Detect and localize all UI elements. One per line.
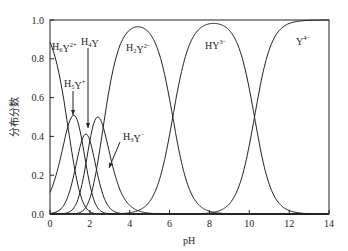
y-tick-label: 0.6: [32, 92, 45, 103]
species-label: H5Y+: [64, 78, 86, 91]
species-label: H6Y2+: [52, 41, 77, 54]
y-tick-label: 0.0: [32, 209, 45, 220]
y-tick-label: 1.0: [32, 15, 45, 26]
species-label: H4Y: [81, 36, 99, 49]
x-tick-label: 14: [324, 218, 334, 229]
y-tick-label: 0.2: [32, 170, 45, 181]
plot-frame: [50, 20, 329, 214]
species-label: H2Y2−: [126, 42, 151, 55]
y-tick-label: 0.4: [32, 131, 45, 142]
x-tick-label: 12: [284, 218, 294, 229]
x-tick-label: 10: [244, 218, 254, 229]
y-axis-ticks: 0.00.20.40.60.81.0: [32, 15, 55, 220]
y-axis-title: 分布分数: [8, 97, 20, 137]
x-tick-label: 0: [48, 218, 53, 229]
x-axis-title: pH: [183, 235, 195, 246]
species-curve-H4Y: [50, 134, 329, 214]
species-curve-Y4-: [50, 20, 329, 214]
species-curve-HY3-: [50, 23, 329, 214]
x-axis-ticks: 02468101214: [48, 210, 335, 229]
species-label: H3Y−: [123, 131, 145, 144]
species-label: Y4−: [296, 34, 310, 47]
species-curves: [50, 20, 329, 214]
distribution-chart: 0.00.20.40.60.81.0 02468101214 H6Y2+H4YH…: [0, 0, 348, 251]
species-curve-H3Y-: [50, 117, 329, 214]
x-tick-label: 2: [87, 218, 92, 229]
annotations: H6Y2+H4YH5Y+H3Y−H2Y2−HY3−Y4−: [52, 34, 310, 168]
species-curve-H2Y2-: [50, 27, 329, 214]
x-tick-label: 8: [207, 218, 212, 229]
x-tick-label: 6: [167, 218, 172, 229]
x-tick-label: 4: [127, 218, 132, 229]
species-label: HY3−: [205, 38, 227, 51]
y-tick-label: 0.8: [32, 53, 45, 64]
